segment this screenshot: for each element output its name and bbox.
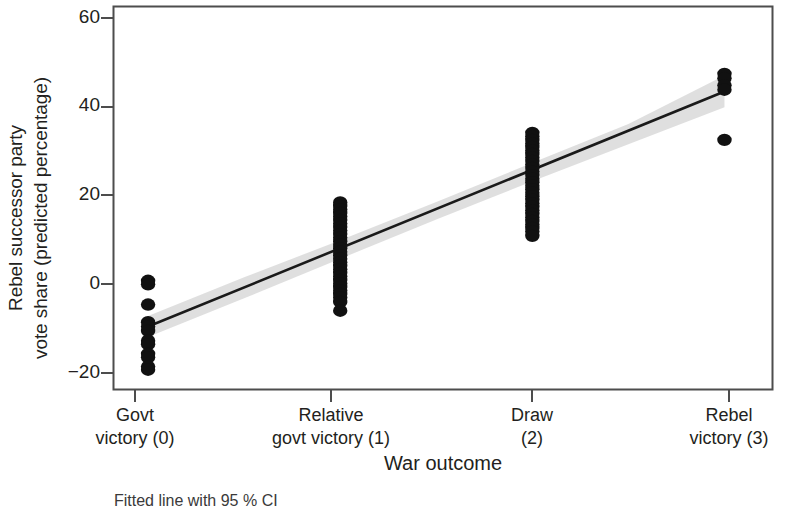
x-tick-label-govt-victory: Govt victory (0) [95, 404, 174, 450]
x-tick-label-relative-govt-victory-line2: govt victory (1) [272, 427, 390, 450]
confidence-band [148, 76, 724, 337]
fitted-regression-line [148, 91, 724, 326]
x-tick-label-rebel-victory: Rebel victory (3) [689, 404, 768, 450]
scatter-point [141, 363, 155, 375]
scatter-points [141, 68, 732, 376]
x-tick-label-relative-govt-victory: Relative govt victory (1) [272, 404, 390, 450]
x-tick-label-govt-victory-line2: victory (0) [95, 427, 174, 450]
scatter-point [141, 278, 155, 290]
x-tick-label-draw-line1: Draw [511, 404, 553, 427]
scatter-point [525, 230, 539, 242]
x-axis-ticks [135, 390, 729, 402]
x-tick-label-rebel-victory-line2: victory (3) [689, 427, 768, 450]
x-tick-label-relative-govt-victory-line1: Relative [272, 404, 390, 427]
y-tick-40: 40 [38, 94, 100, 118]
y-tick-60: 60 [38, 6, 100, 30]
y-tick-label-40: 40 [40, 94, 100, 116]
scatter-point [717, 84, 731, 96]
y-tick-0: 0 [38, 272, 100, 296]
x-tick-label-govt-victory-line1: Govt [95, 404, 174, 427]
y-axis-title-line-2: vote share (predicted percentage) [30, 22, 52, 414]
scatter-point [141, 298, 155, 310]
scatter-point [717, 134, 731, 146]
x-tick-label-draw-line2: (2) [511, 427, 553, 450]
y-tick-neg20: −20 [38, 361, 100, 385]
x-tick-label-draw: Draw (2) [511, 404, 553, 450]
chart-caption: Fitted line with 95 % CI [114, 492, 278, 510]
y-tick-label-20: 20 [40, 183, 100, 205]
x-tick-label-rebel-victory-line1: Rebel [689, 404, 768, 427]
y-tick-label-0: 0 [40, 272, 100, 294]
x-axis-title: War outcome [113, 452, 773, 475]
y-tick-label-neg20: −20 [40, 361, 100, 383]
chart-figure: Rebel successor party vote share (predic… [0, 0, 801, 520]
plot-frame [114, 7, 773, 390]
y-tick-label-60: 60 [40, 6, 100, 28]
y-axis-ticks [101, 18, 113, 373]
y-axis-title-line-1: Rebel successor party [5, 22, 27, 414]
y-tick-20: 20 [38, 183, 100, 207]
scatter-point [333, 305, 347, 317]
